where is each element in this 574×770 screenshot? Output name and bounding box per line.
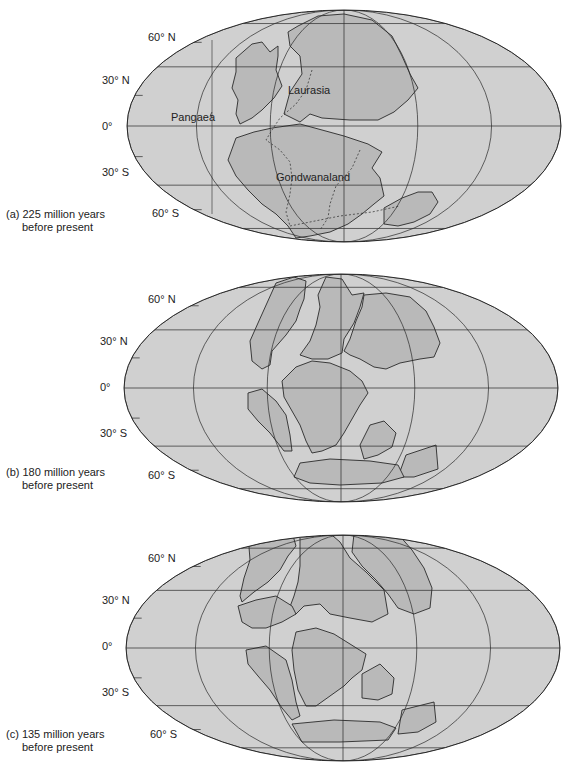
lat-label-30s: 30° S <box>102 686 129 698</box>
label-pangaea: Pangaea <box>171 111 215 123</box>
lat-label-equator: 0° <box>102 120 113 132</box>
label-laurasia: Laurasia <box>288 84 330 96</box>
lat-label-30n: 30° N <box>100 335 128 347</box>
panel-135-mya: 60° N 30° N 0° 30° S 60° S (c) 135 milli… <box>0 510 574 770</box>
panel-225-mya: 60° N 30° N 0° 30° S 60° S Pangaea Laura… <box>0 0 574 255</box>
lat-label-equator: 0° <box>100 381 111 393</box>
caption-line-1: (a) 225 million years <box>6 208 105 220</box>
continent <box>292 720 396 742</box>
lat-label-60n: 60° N <box>148 31 176 43</box>
caption-225-mya: (a) 225 million years before present <box>6 208 105 234</box>
caption-line-2: before present <box>6 479 105 492</box>
caption-line-1: (b) 180 million years <box>6 466 105 478</box>
lat-label-equator: 0° <box>102 640 113 652</box>
lat-label-60s: 60° S <box>150 728 177 740</box>
caption-line-2: before present <box>6 741 104 754</box>
lat-label-60s: 60° S <box>152 207 179 219</box>
lat-label-60n: 60° N <box>148 552 176 564</box>
lat-label-60s: 60° S <box>148 469 175 481</box>
label-gondwanaland: Gondwanaland <box>276 171 350 183</box>
lat-label-30s: 30° S <box>100 427 127 439</box>
caption-line-1: (c) 135 million years <box>6 728 104 740</box>
caption-135-mya: (c) 135 million years before present <box>6 728 104 754</box>
lat-label-60n: 60° N <box>148 293 176 305</box>
lat-label-30n: 30° N <box>102 74 130 86</box>
lat-label-30n: 30° N <box>102 594 130 606</box>
panel-180-mya: 60° N 30° N 0° 30° S 60° S (b) 180 milli… <box>0 255 574 510</box>
lat-label-30s: 30° S <box>102 166 129 178</box>
caption-line-2: before present <box>6 221 105 234</box>
caption-180-mya: (b) 180 million years before present <box>6 466 105 492</box>
